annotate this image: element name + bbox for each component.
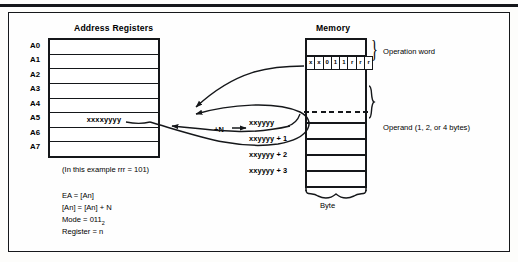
arrow-a5-to-operand (150, 105, 309, 145)
arrow-increment-to-register (172, 126, 290, 131)
leader-operand-address (288, 114, 300, 126)
operand-brace (369, 86, 374, 118)
arrow-opword-to-a5 (196, 66, 304, 107)
byte-brace-ticks (306, 185, 366, 191)
connector-overlay (0, 0, 518, 262)
leader-register-value (126, 122, 150, 124)
addressing-mode-diagram: Address Registers Memory A0 A1 A2 A3 A4 … (0, 0, 518, 262)
byte-brace (306, 190, 366, 198)
